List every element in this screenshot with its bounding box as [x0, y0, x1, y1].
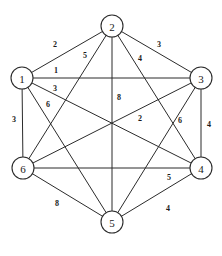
graph-edge-2-4	[118, 35, 195, 158]
node-label-3: 3	[198, 73, 204, 85]
edge-weight-3-6: 2	[138, 114, 142, 123]
edge-weight-1-3: 1	[54, 66, 58, 75]
graph-edge-1-6	[22, 89, 23, 157]
node-label-5: 5	[109, 217, 115, 229]
graph-edge-1-5	[28, 87, 106, 212]
graph-edge-2-3	[122, 32, 192, 73]
node-label-1: 1	[19, 73, 25, 85]
node-label-4: 4	[198, 163, 204, 175]
graph-edge-4-5	[121, 174, 191, 217]
graph-node-2[interactable]: 2	[101, 15, 123, 37]
edge-weight-2-4: 4	[138, 54, 142, 63]
node-label-6: 6	[20, 163, 26, 175]
edge-weight-3-5: 6	[178, 116, 182, 125]
edge-weight-1-4: 3	[53, 84, 57, 93]
graph-svg: 123456 231543638264584	[0, 0, 222, 256]
graph-node-3[interactable]: 3	[190, 67, 212, 89]
edge-weight-3-4: 4	[207, 120, 211, 129]
graph-node-1[interactable]: 1	[11, 67, 33, 89]
edge-weight-4-6: 5	[167, 173, 171, 182]
graph-edge-2-6	[29, 35, 106, 158]
node-label-2: 2	[109, 21, 115, 33]
edge-weight-4-5: 4	[166, 204, 170, 213]
graph-edge-5-6	[32, 174, 102, 217]
edge-weight-1-5: 6	[46, 100, 50, 109]
edge-weight-2-3: 3	[157, 40, 161, 49]
edge-weight-1-6: 3	[12, 115, 16, 124]
edge-weight-2-6: 5	[83, 51, 87, 60]
graph-node-5[interactable]: 5	[101, 211, 123, 233]
graph-node-6[interactable]: 6	[12, 157, 34, 179]
edge-layer	[22, 32, 201, 217]
graph-edge-3-5	[118, 87, 195, 212]
edge-weight-5-6: 8	[55, 199, 59, 208]
graph-edge-1-2	[32, 32, 103, 73]
graph-node-4[interactable]: 4	[190, 157, 212, 179]
edge-weight-2-5: 8	[117, 93, 121, 102]
graph-figure: 123456 231543638264584	[0, 0, 222, 256]
edge-weight-1-2: 2	[53, 40, 57, 49]
